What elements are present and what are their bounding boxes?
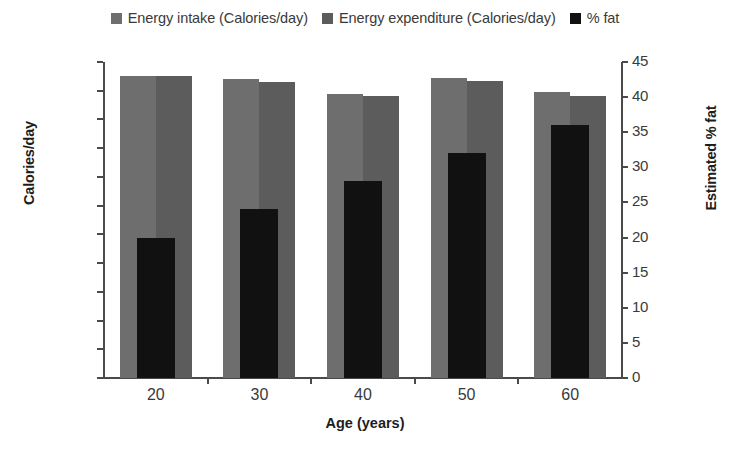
- y-axis-left-tick: [97, 348, 103, 350]
- legend-swatch-percent-fat: [570, 13, 581, 24]
- y-axis-right-tick: [622, 342, 628, 344]
- plot-area: 2,1002,0001,9001,8001,7001,6001,5001,400…: [104, 62, 622, 378]
- legend-label-energy-expenditure: Energy expenditure (Calories/day): [339, 10, 556, 26]
- bar-percent-fat: [448, 153, 486, 378]
- legend-item-percent-fat: % fat: [570, 10, 620, 26]
- x-axis-tick-label: 50: [437, 386, 497, 404]
- x-axis-tick: [517, 378, 519, 384]
- y-axis-right-tick-label: 20: [632, 228, 672, 245]
- y-axis-left-tick: [97, 118, 103, 120]
- x-axis-tick: [414, 378, 416, 384]
- y-axis-right-tick: [622, 131, 628, 133]
- y-axis-right-tick-label: 45: [632, 52, 672, 69]
- bar-percent-fat: [240, 209, 278, 378]
- bar-percent-fat: [344, 181, 382, 378]
- x-axis-tick-label: 30: [229, 386, 289, 404]
- y-axis-left-tick: [97, 205, 103, 207]
- y-axis-right-tick-label: 25: [632, 192, 672, 209]
- energy-balance-bar-chart: Energy intake (Calories/day) Energy expe…: [0, 0, 730, 449]
- legend-label-energy-intake: Energy intake (Calories/day): [128, 10, 308, 26]
- y-axis-left-title: Calories/day: [21, 88, 37, 238]
- y-axis-right-tick: [622, 237, 628, 239]
- x-axis-tick: [207, 378, 209, 384]
- y-axis-left-tick: [97, 291, 103, 293]
- y-axis-left-tick: [97, 262, 103, 264]
- y-axis-right-tick: [622, 377, 628, 379]
- y-axis-right-tick: [622, 307, 628, 309]
- y-axis-right-tick-label: 35: [632, 122, 672, 139]
- y-axis-right-tick-label: 40: [632, 87, 672, 104]
- y-axis-left-tick: [97, 176, 103, 178]
- y-axis-right-tick-label: 30: [632, 157, 672, 174]
- y-axis-left-tick: [97, 147, 103, 149]
- bar-percent-fat: [551, 125, 589, 378]
- x-axis-tick-label: 40: [333, 386, 393, 404]
- y-axis-right-tick: [622, 61, 628, 63]
- y-axis-right-tick: [622, 201, 628, 203]
- y-axis-right-tick-label: 15: [632, 263, 672, 280]
- y-axis-right-tick: [622, 166, 628, 168]
- bar-percent-fat: [137, 238, 175, 378]
- legend-item-energy-expenditure: Energy expenditure (Calories/day): [322, 10, 556, 26]
- y-axis-left-tick: [97, 61, 103, 63]
- y-axis-right-tick: [622, 272, 628, 274]
- y-axis-right-tick: [622, 96, 628, 98]
- y-axis-right-tick-label: 5: [632, 333, 672, 350]
- bars-layer: [104, 62, 622, 378]
- legend-swatch-energy-intake: [111, 13, 122, 24]
- y-axis-left-tick: [97, 233, 103, 235]
- x-axis-tick-label: 60: [540, 386, 600, 404]
- legend-item-energy-intake: Energy intake (Calories/day): [111, 10, 308, 26]
- y-axis-right-title: Estimated % fat: [703, 73, 719, 243]
- x-axis-tick-label: 20: [126, 386, 186, 404]
- y-axis-right-tick-label: 10: [632, 298, 672, 315]
- y-axis-right-tick-label: 0: [632, 368, 672, 385]
- legend-label-percent-fat: % fat: [587, 10, 620, 26]
- y-axis-left-tick: [97, 320, 103, 322]
- x-axis-title: Age (years): [0, 415, 730, 431]
- x-axis-tick: [310, 378, 312, 384]
- legend-swatch-energy-expenditure: [322, 13, 333, 24]
- y-axis-left-tick: [97, 90, 103, 92]
- y-axis-left-tick: [97, 377, 103, 379]
- chart-legend: Energy intake (Calories/day) Energy expe…: [0, 6, 730, 30]
